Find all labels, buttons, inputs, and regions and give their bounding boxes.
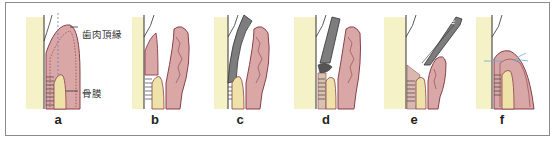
panel-label-c: c bbox=[230, 112, 250, 127]
figure-frame: 歯肉頂縁 骨膜 a b bbox=[5, 2, 550, 136]
panel-label-a: a bbox=[48, 112, 68, 127]
periodontal-illustration-b bbox=[130, 3, 210, 137]
annotation-gingival-margin: 歯肉頂縁 bbox=[82, 27, 122, 41]
periodontal-illustration-e bbox=[380, 3, 470, 137]
panel-e: e e bbox=[380, 3, 470, 137]
panel-c: c bbox=[210, 3, 290, 137]
annotation-periosteum: 骨膜 bbox=[82, 86, 102, 100]
panel-label-b: b bbox=[145, 112, 165, 127]
panel-label-e: e bbox=[404, 112, 424, 127]
panel-label-d: d bbox=[316, 112, 336, 127]
panel-b: b bbox=[130, 3, 210, 137]
panel-label-f: f bbox=[492, 112, 512, 127]
panel-a: 歯肉頂縁 骨膜 a bbox=[20, 3, 130, 137]
periodontal-illustration-c bbox=[210, 3, 290, 137]
instrument-label: e bbox=[450, 17, 455, 26]
periodontal-illustration-a bbox=[20, 3, 130, 137]
panel-f: f bbox=[470, 3, 550, 137]
panel-d: d bbox=[290, 3, 370, 137]
